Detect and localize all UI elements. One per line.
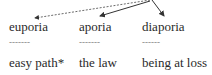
separator-aporia: ------- <box>79 38 100 47</box>
separator-euporia: ------- <box>9 38 30 47</box>
arrow-to-euporia <box>35 0 150 18</box>
gloss-diaporia: being at loss <box>142 56 207 69</box>
arrow-to-aporia <box>100 1 150 16</box>
gloss-euporia: easy path* <box>9 56 64 69</box>
gloss-aporia: the law <box>79 56 117 69</box>
arrow-to-diaporia <box>152 0 164 16</box>
separator-diaporia: ------ <box>142 38 160 47</box>
term-aporia: aporia <box>79 20 111 33</box>
term-diaporia: diaporia <box>142 20 185 33</box>
term-euporia: euporia <box>9 20 48 33</box>
